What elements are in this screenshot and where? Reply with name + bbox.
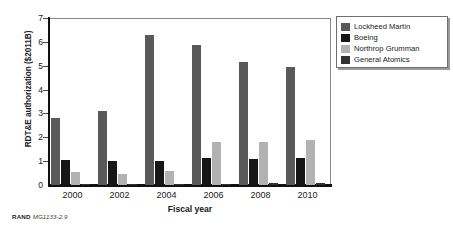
bar (81, 184, 91, 185)
legend-swatch (341, 23, 350, 31)
y-tick-label: 3 (3, 108, 43, 118)
x-tick-label: 2000 (48, 190, 98, 200)
bar (165, 171, 175, 185)
chart-legend: Lockheed MartinBoeingNorthrop GrummanGen… (336, 16, 448, 68)
y-tick-label: 5 (3, 61, 43, 71)
bar (98, 111, 108, 185)
legend-item[interactable]: Northrop Grumman (341, 43, 447, 54)
bar (316, 183, 326, 185)
legend-label: Lockheed Martin (354, 21, 410, 32)
bar-group (286, 18, 326, 185)
bar (249, 159, 259, 185)
bar (71, 172, 81, 185)
x-tick-label: 2010 (283, 190, 333, 200)
bar-group (239, 18, 279, 185)
x-tick-label: 2004 (142, 190, 192, 200)
legend-item[interactable]: Lockheed Martin (341, 21, 447, 32)
footer-figure-id: MG1133-2.9 (33, 213, 68, 220)
legend-label: Boeing (354, 32, 378, 43)
bar (145, 35, 155, 185)
bar-group (51, 18, 91, 185)
y-tick-label: 7 (3, 13, 43, 23)
x-tick-label: 2002 (95, 190, 145, 200)
bar (192, 45, 202, 185)
y-tick-label: 1 (3, 156, 43, 166)
bar (239, 62, 249, 185)
bar (155, 161, 165, 185)
legend-swatch (341, 45, 350, 53)
footer-brand: RAND (12, 213, 31, 220)
bar (286, 67, 296, 185)
y-tick-label: 2 (3, 132, 43, 142)
bar-group (145, 18, 185, 185)
bar (296, 158, 306, 185)
x-axis-title: Fiscal year (49, 204, 331, 214)
bar (306, 140, 316, 185)
bars-layer (49, 18, 331, 185)
bar-group (98, 18, 138, 185)
bar (212, 142, 222, 185)
y-tick-label: 4 (3, 85, 43, 95)
bar (61, 160, 71, 185)
bar (222, 184, 232, 185)
bar (175, 184, 185, 185)
legend-swatch (341, 56, 350, 64)
bar (51, 118, 61, 185)
legend-item[interactable]: General Atomics (341, 54, 447, 65)
bar-group (192, 18, 232, 185)
x-tick-label: 2006 (189, 190, 239, 200)
figure-footer: RANDMG1133-2.9 (12, 213, 68, 220)
bar (128, 184, 138, 185)
bar (118, 174, 128, 185)
legend-swatch (341, 34, 350, 42)
bar (259, 142, 269, 185)
chart-figure: RDT&E authorization ($2011B) 01234567 20… (0, 0, 453, 236)
x-tick-label: 2008 (236, 190, 286, 200)
bar (202, 158, 212, 185)
bar (108, 161, 118, 185)
y-tick-label: 0 (3, 180, 43, 190)
legend-label: General Atomics (354, 54, 410, 65)
legend-label: Northrop Grumman (354, 43, 419, 54)
y-tick-label: 6 (3, 37, 43, 47)
legend-item[interactable]: Boeing (341, 32, 447, 43)
bar (269, 183, 279, 185)
